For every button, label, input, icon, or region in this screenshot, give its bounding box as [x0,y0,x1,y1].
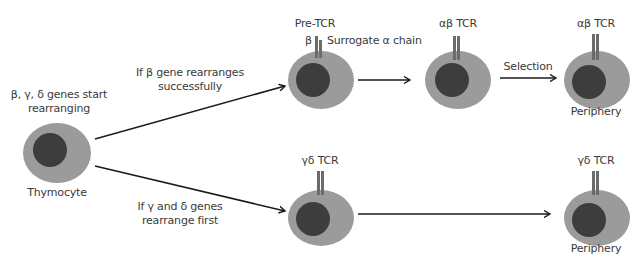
gd-condition-line2: rearrange first [120,214,240,228]
surrogate-alpha-label: Surrogate α chain [327,34,422,48]
beta-chain-label: β [305,34,312,48]
ab-periphery-cell [564,34,630,109]
gd-tcr-label: γδ TCR [292,154,348,168]
ab-periphery-label: Periphery [566,105,626,119]
pre-tcr-label: Pre-TCR [290,17,340,31]
start-header-line2: rearranging [4,102,114,116]
ab-final-tcr-label: αβ TCR [568,17,624,31]
gd-final-tcr-label: γδ TCR [568,154,624,168]
gd-condition-line1: If γ and δ genes [120,200,240,214]
start-header-line1: β, γ, δ genes start [4,88,114,102]
gd-condition-label: If γ and δ genes rearrange first [120,200,240,228]
ab-condition-line1: If β gene rearranges [120,66,260,80]
selection-label: Selection [500,60,556,74]
thymocyte-label: Thymocyte [12,186,102,200]
thymocyte-cell [23,123,91,183]
ab-condition-line2: successfully [120,80,260,94]
tcell-development-diagram [0,0,643,269]
ab-tcr-cell [425,36,491,109]
gd-periphery-label: Periphery [566,242,626,256]
start-header: β, γ, δ genes start rearranging [4,88,114,116]
gd-periphery-cell [564,171,630,246]
ab-tcr-label: αβ TCR [430,17,486,31]
ab-condition-label: If β gene rearranges successfully [120,66,260,94]
gd-tcr-cell [288,171,354,246]
